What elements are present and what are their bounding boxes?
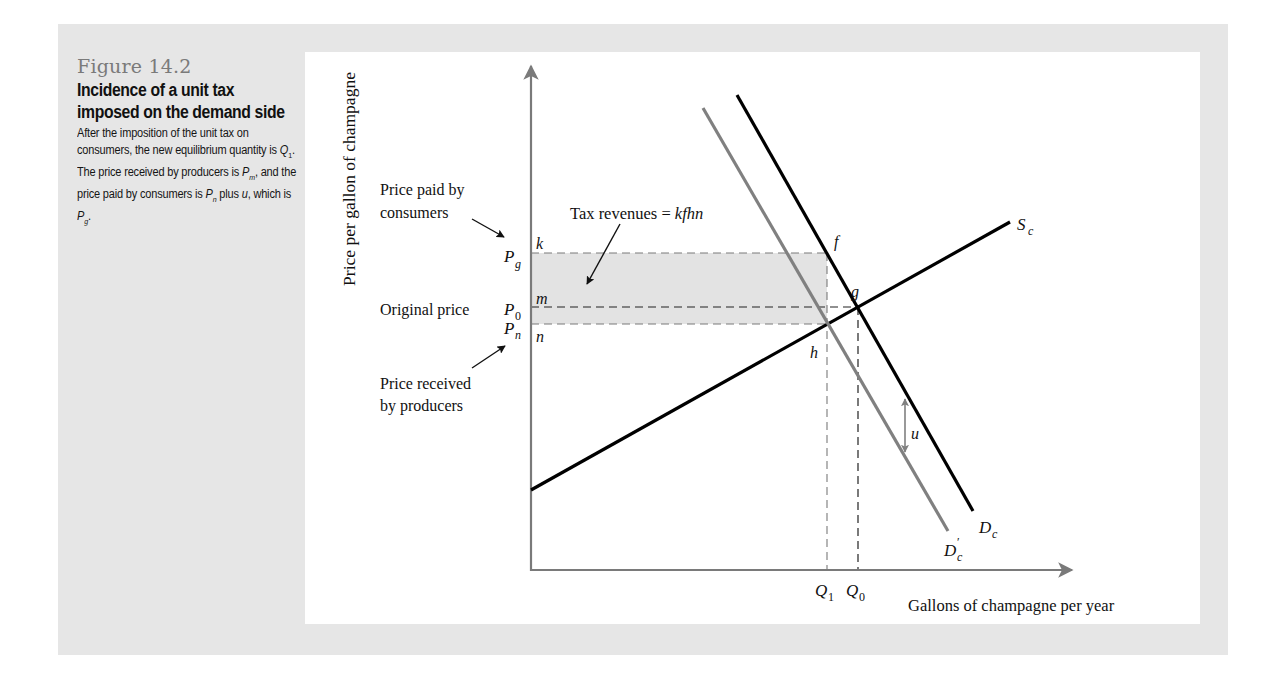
y-axis-title: Price per gallon of champagne xyxy=(339,72,359,286)
x-axis-title: Gallons of champagne per year xyxy=(908,596,1115,615)
svg-text:D: D xyxy=(943,541,957,560)
svg-text:Q: Q xyxy=(846,581,858,600)
svg-text:Q: Q xyxy=(815,581,827,600)
y-tick-Pg: P g xyxy=(503,247,521,271)
svg-text:′: ′ xyxy=(957,535,960,549)
original-price-label: Original price xyxy=(380,301,469,319)
price-received-label-2: by producers xyxy=(380,397,463,415)
price-received-arrow xyxy=(472,346,505,368)
svg-text:P: P xyxy=(503,300,514,319)
tax-revenue-area xyxy=(531,253,827,324)
svg-text:g: g xyxy=(515,257,521,271)
svg-text:1: 1 xyxy=(828,590,834,604)
supply-label: S c xyxy=(1017,215,1034,238)
point-f: f xyxy=(834,233,841,251)
svg-text:n: n xyxy=(515,328,521,342)
price-paid-arrow xyxy=(472,219,504,237)
svg-text:D: D xyxy=(978,518,992,537)
x-tick-Q0: Q 0 xyxy=(846,581,865,604)
point-m: m xyxy=(536,290,548,307)
point-h: h xyxy=(810,344,818,361)
tax-shift-label: u xyxy=(911,425,919,442)
svg-text:0: 0 xyxy=(515,309,521,323)
chart-svg: Price per gallon of champagne Gallons of… xyxy=(0,0,1276,685)
svg-text:0: 0 xyxy=(859,590,865,604)
shifted-demand-label: D ′ c xyxy=(943,535,963,564)
price-paid-label-2: consumers xyxy=(380,204,448,221)
svg-text:c: c xyxy=(1028,224,1034,238)
svg-text:c: c xyxy=(957,550,963,564)
point-n: n xyxy=(536,328,544,345)
svg-text:Tax revenues = kfhn: Tax revenues = kfhn xyxy=(570,204,703,223)
svg-text:S: S xyxy=(1017,215,1026,234)
svg-text:c: c xyxy=(992,527,998,541)
svg-text:P: P xyxy=(503,319,514,338)
point-k: k xyxy=(536,235,544,252)
svg-text:P: P xyxy=(503,247,514,266)
price-paid-label: Price paid by xyxy=(380,181,464,199)
point-g: g xyxy=(851,283,859,301)
price-received-label: Price received xyxy=(380,375,471,392)
x-tick-Q1: Q 1 xyxy=(815,581,834,604)
demand-label: D c xyxy=(978,518,998,541)
tax-revenue-label: Tax revenues = kfhn xyxy=(570,204,703,223)
